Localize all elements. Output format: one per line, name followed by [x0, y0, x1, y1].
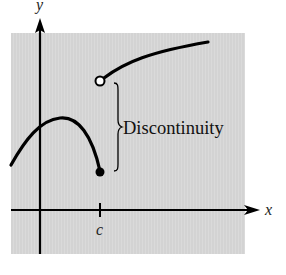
discontinuity-label: Discontinuity: [123, 118, 224, 138]
discontinuity-diagram: y x c Discontinuity: [0, 0, 286, 275]
closed-point: [96, 168, 105, 177]
plot-background: [11, 33, 245, 254]
x-axis-label: x: [264, 201, 272, 218]
c-tick-label: c: [96, 221, 103, 238]
y-axis-label: y: [34, 0, 44, 14]
open-point: [96, 77, 105, 86]
